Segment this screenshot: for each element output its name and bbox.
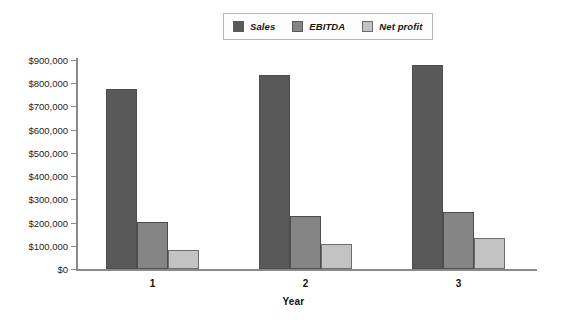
x-tick-label: 3 bbox=[456, 278, 462, 289]
x-tick-label: 1 bbox=[150, 278, 156, 289]
y-tick-label: $800,000 bbox=[28, 78, 68, 89]
y-tick-mark bbox=[71, 199, 76, 200]
bar-chart-figure: Sales EBITDA Net profit $0$100,000$200,0… bbox=[0, 0, 587, 324]
bar-sales[interactable] bbox=[412, 65, 443, 269]
bar-net-profit[interactable] bbox=[168, 250, 199, 269]
bar-group bbox=[106, 60, 199, 269]
legend-item-ebitda: EBITDA bbox=[292, 21, 345, 32]
y-tick-label: $700,000 bbox=[28, 101, 68, 112]
bar-sales[interactable] bbox=[106, 89, 137, 269]
bar-sales[interactable] bbox=[259, 75, 290, 269]
y-tick-mark bbox=[71, 246, 76, 247]
y-tick-label: $300,000 bbox=[28, 194, 68, 205]
y-tick-label: $0 bbox=[57, 264, 68, 275]
y-tick-mark bbox=[71, 83, 76, 84]
bar-group bbox=[259, 60, 352, 269]
y-tick-mark bbox=[71, 269, 76, 270]
legend-item-sales: Sales bbox=[233, 21, 275, 32]
plot-area: $0$100,000$200,000$300,000$400,000$500,0… bbox=[76, 60, 535, 269]
legend-swatch-net-profit-icon bbox=[362, 21, 373, 32]
x-axis-title: Year bbox=[0, 296, 587, 307]
x-tick-label: 2 bbox=[303, 278, 309, 289]
legend-label-net-profit: Net profit bbox=[379, 21, 422, 32]
y-tick-mark bbox=[71, 130, 76, 131]
y-tick-label: $200,000 bbox=[28, 217, 68, 228]
bar-net-profit[interactable] bbox=[321, 244, 352, 269]
y-tick-label: $500,000 bbox=[28, 147, 68, 158]
y-tick-mark bbox=[71, 223, 76, 224]
bar-ebitda[interactable] bbox=[137, 222, 168, 269]
legend-item-net-profit: Net profit bbox=[362, 21, 422, 32]
bar-net-profit[interactable] bbox=[474, 238, 505, 269]
y-tick-label: $400,000 bbox=[28, 171, 68, 182]
y-tick-label: $900,000 bbox=[28, 55, 68, 66]
bar-ebitda[interactable] bbox=[443, 212, 474, 269]
legend-swatch-sales-icon bbox=[233, 21, 244, 32]
y-tick-mark bbox=[71, 106, 76, 107]
chart-legend: Sales EBITDA Net profit bbox=[223, 13, 433, 40]
y-tick-label: $600,000 bbox=[28, 124, 68, 135]
y-tick-mark bbox=[71, 60, 76, 61]
legend-label-ebitda: EBITDA bbox=[309, 21, 345, 32]
y-tick-mark bbox=[71, 153, 76, 154]
y-tick-mark bbox=[71, 176, 76, 177]
bar-group bbox=[412, 60, 505, 269]
bar-ebitda[interactable] bbox=[290, 216, 321, 269]
legend-swatch-ebitda-icon bbox=[292, 21, 303, 32]
y-tick-label: $100,000 bbox=[28, 240, 68, 251]
legend-label-sales: Sales bbox=[250, 21, 275, 32]
x-axis-line bbox=[76, 269, 537, 271]
